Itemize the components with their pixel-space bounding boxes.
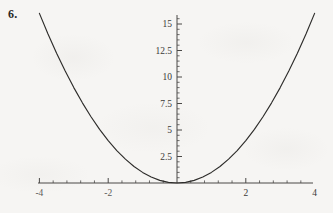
x-axis-tick-labels: -4-224 — [35, 188, 317, 198]
y-axis-tick-labels: 2.557.51012.515 — [155, 19, 172, 162]
x-tick-label: -4 — [35, 188, 43, 198]
y-tick-label: 15 — [163, 19, 173, 29]
x-tick-label: 4 — [312, 188, 317, 198]
y-tick-label: 7.5 — [160, 99, 172, 109]
y-tick-label: 12.5 — [155, 46, 172, 56]
x-tick-label: 2 — [243, 188, 248, 198]
y-tick-label: 10 — [163, 72, 173, 82]
x-tick-label: -2 — [104, 188, 112, 198]
y-tick-label: 5 — [167, 125, 172, 135]
parabola-plot: -4-224 2.557.51012.515 — [0, 0, 333, 213]
y-tick-label: 2.5 — [160, 152, 172, 162]
y-axis-ticks — [177, 19, 182, 178]
axes-group — [38, 15, 313, 183]
figure-page: 6. -4-224 2.557.51012.515 — [0, 0, 333, 213]
